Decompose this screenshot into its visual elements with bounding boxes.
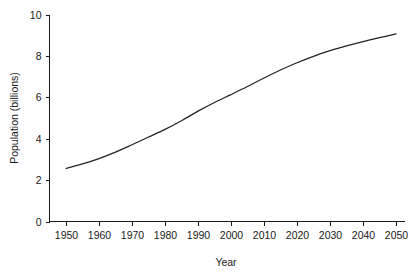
x-tick-label-1980: 1980	[154, 229, 178, 241]
y-tick-label-10: 10	[30, 9, 42, 21]
x-axis-title: Year	[215, 256, 237, 268]
population-line-chart: 0246810 19501960197019801990200020102020…	[0, 0, 418, 276]
x-tick-label-1990: 1990	[187, 229, 211, 241]
x-tick-label-1970: 1970	[121, 229, 145, 241]
x-tick-label-2030: 2030	[319, 229, 343, 241]
x-tick-label-2000: 2000	[220, 229, 244, 241]
x-tick-label-2050: 2050	[385, 229, 409, 241]
y-tick-label-group: 0246810	[30, 9, 42, 228]
y-tick-marks	[46, 16, 50, 223]
y-tick-label-2: 2	[36, 174, 42, 186]
y-tick-label-0: 0	[36, 216, 42, 228]
y-tick-label-4: 4	[36, 133, 42, 145]
x-tick-label-2040: 2040	[352, 229, 376, 241]
y-axis-title: Population (billions)	[8, 72, 20, 164]
y-tick-label-6: 6	[36, 91, 42, 103]
x-tick-label-1960: 1960	[88, 229, 112, 241]
y-tick-label-8: 8	[36, 50, 42, 62]
chart-plot-area: 0246810 19501960197019801990200020102020…	[0, 0, 418, 276]
x-tick-label-2020: 2020	[286, 229, 310, 241]
population-series-line	[66, 34, 396, 169]
x-tick-label-1950: 1950	[55, 229, 79, 241]
x-tick-label-group: 1950196019701980199020002010202020302040…	[55, 229, 409, 241]
x-tick-marks	[67, 222, 397, 226]
x-tick-label-2010: 2010	[253, 229, 277, 241]
